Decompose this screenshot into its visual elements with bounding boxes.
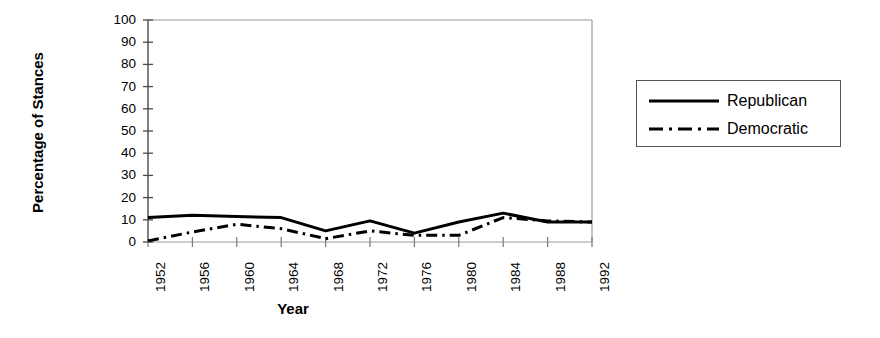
x-tick-label: 1956 bbox=[197, 262, 212, 292]
tick-marks bbox=[143, 20, 592, 247]
x-tick-label: 1980 bbox=[464, 262, 479, 292]
legend-item-democratic: Democratic bbox=[637, 115, 840, 143]
x-tick-label: 1960 bbox=[242, 262, 257, 292]
chart-figure: Percentage of Stances 010203040506070809… bbox=[0, 0, 880, 338]
x-axis-title: Year bbox=[148, 300, 438, 317]
chart-legend: Republican Democratic bbox=[636, 80, 841, 147]
x-tick-label: 1968 bbox=[331, 262, 346, 292]
x-tick-label: 1972 bbox=[375, 262, 390, 292]
legend-label-republican: Republican bbox=[727, 92, 807, 110]
series-line-republican bbox=[148, 213, 592, 233]
legend-line-solid-icon bbox=[647, 94, 721, 108]
series-lines bbox=[148, 213, 592, 241]
x-tick-label: 1992 bbox=[597, 262, 612, 292]
legend-label-democratic: Democratic bbox=[727, 120, 808, 138]
x-tick-label: 1952 bbox=[153, 262, 168, 292]
legend-line-dashdot-icon bbox=[647, 122, 721, 136]
legend-item-republican: Republican bbox=[637, 87, 840, 115]
x-tick-label: 1964 bbox=[286, 262, 301, 292]
axis-lines bbox=[148, 20, 592, 242]
x-tick-label: 1988 bbox=[553, 262, 568, 292]
x-tick-label: 1984 bbox=[508, 262, 523, 292]
plot-area bbox=[0, 0, 880, 338]
x-tick-label: 1976 bbox=[419, 262, 434, 292]
